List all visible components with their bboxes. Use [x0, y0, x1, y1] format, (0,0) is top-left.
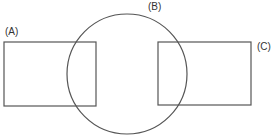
label-c: (C) [257, 42, 271, 52]
rectangle-a [4, 42, 96, 106]
label-a: (A) [5, 27, 18, 37]
circle-b [67, 14, 187, 134]
rectangle-c [158, 42, 251, 105]
diagram-canvas [0, 0, 272, 137]
label-b: (B) [148, 2, 161, 12]
